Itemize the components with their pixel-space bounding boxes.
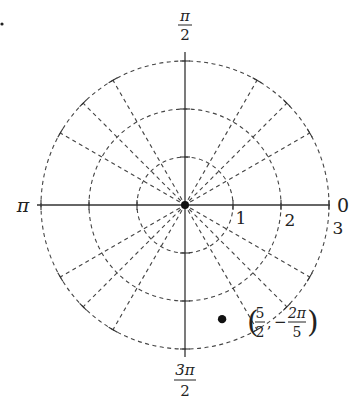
- origin-point: [181, 201, 189, 209]
- label-top-denominator: 2: [180, 26, 190, 44]
- point-theta-sign: −: [274, 313, 287, 331]
- ray-end-tick: [109, 327, 118, 332]
- point-r-denominator: 2: [256, 324, 265, 340]
- ray-end-tick: [253, 78, 262, 83]
- ray-end-tick: [58, 129, 63, 138]
- paren-close: ): [307, 304, 319, 339]
- point-r-numerator: 5: [256, 305, 265, 321]
- grid-ray-60deg: [188, 80, 257, 200]
- ray-end-tick: [80, 100, 87, 107]
- radius-label-3: 3: [333, 218, 344, 238]
- grid-ray-45deg: [189, 103, 287, 201]
- plotted-point: [218, 315, 226, 323]
- grid-ray-240deg: [113, 210, 182, 330]
- label-top-numerator: π: [179, 7, 191, 25]
- label-bottom-numerator: 3π: [175, 361, 196, 379]
- ray-end-tick: [283, 100, 290, 107]
- radius-label-1: 1: [236, 208, 247, 228]
- ray-end-tick: [307, 129, 312, 138]
- grid-ray-30deg: [190, 133, 310, 202]
- grid-ray-150deg: [60, 133, 180, 202]
- problem-marker-dot: [0, 22, 3, 25]
- ray-end-tick: [307, 273, 312, 282]
- radius-label-2: 2: [285, 210, 296, 230]
- point-label: ( 5 2 , − 2π 5 ): [247, 304, 319, 340]
- label-3pi-over-2: 3π 2: [174, 361, 196, 400]
- polar-coordinate-diagram: π 2 3π 2 π 0 1 2 3 ( 5 2 , − 2π 5 ): [0, 0, 352, 407]
- point-comma: ,: [267, 315, 271, 331]
- point-theta-denominator: 5: [293, 324, 302, 340]
- label-pi-over-2: π 2: [178, 7, 192, 44]
- grid-ray-225deg: [83, 209, 181, 307]
- ray-end-tick: [58, 273, 63, 282]
- label-pi: π: [16, 194, 30, 216]
- ray-end-tick: [80, 303, 87, 310]
- label-zero: 0: [337, 194, 349, 216]
- grid-ray-120deg: [113, 80, 182, 200]
- label-bottom-denominator: 2: [180, 382, 190, 400]
- grid-ray-210deg: [60, 208, 180, 277]
- ray-end-tick: [109, 78, 118, 83]
- point-theta-numerator: 2π: [287, 305, 307, 321]
- grid-ray-135deg: [83, 103, 181, 201]
